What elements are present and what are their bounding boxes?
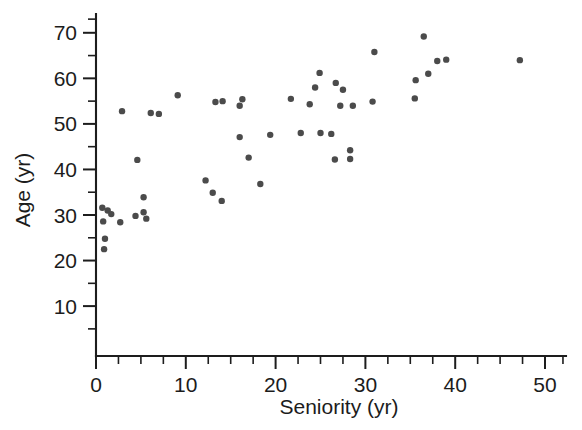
data-point [134, 157, 140, 163]
data-point [340, 87, 346, 93]
data-point [210, 189, 216, 195]
data-point [117, 219, 123, 225]
x-axis-tick-label: 30 [354, 373, 377, 396]
data-point [236, 134, 242, 140]
data-point [350, 102, 356, 108]
data-point [307, 101, 313, 107]
data-point [288, 96, 294, 102]
data-point [140, 209, 146, 215]
data-point [337, 102, 343, 108]
data-point [239, 96, 245, 102]
data-point [517, 57, 523, 63]
data-point [212, 99, 218, 105]
data-point [156, 111, 162, 117]
y-axis-tick-label: 20 [54, 249, 77, 272]
data-point [236, 102, 242, 108]
data-point [219, 198, 225, 204]
data-point [119, 108, 125, 114]
y-axis-tick-label: 10 [54, 295, 77, 318]
data-point [267, 132, 273, 138]
x-axis-tick-label: 20 [264, 373, 287, 396]
data-point [102, 235, 108, 241]
data-point [100, 218, 106, 224]
data-point [412, 95, 418, 101]
data-point [333, 80, 339, 86]
x-axis-tick-label: 40 [444, 373, 467, 396]
data-point [434, 58, 440, 64]
data-point [298, 130, 304, 136]
y-axis: 10203040506070 [54, 14, 96, 356]
data-point [317, 130, 323, 136]
data-point [245, 154, 251, 160]
data-point [412, 77, 418, 83]
data-point [148, 110, 154, 116]
data-point [108, 211, 114, 217]
data-point [143, 215, 149, 221]
y-axis-tick-label: 50 [54, 112, 77, 135]
data-point [332, 156, 338, 162]
data-points-layer [99, 33, 523, 252]
data-point [312, 84, 318, 90]
data-point [328, 131, 334, 137]
data-point [316, 70, 322, 76]
x-axis-tick-label: 0 [90, 373, 102, 396]
y-axis-tick-label: 40 [54, 158, 77, 181]
x-axis: 01020304050 [90, 356, 566, 396]
data-point [202, 177, 208, 183]
y-axis-title: Age (yr) [11, 153, 34, 228]
y-axis-tick-label: 60 [54, 67, 77, 90]
x-axis-title: Seniority (yr) [279, 395, 398, 418]
data-point [101, 246, 107, 252]
data-point [140, 194, 146, 200]
data-point [257, 181, 263, 187]
data-point [443, 56, 449, 62]
data-point [371, 49, 377, 55]
y-axis-tick-label: 70 [54, 21, 77, 44]
data-point [175, 92, 181, 98]
data-point [347, 147, 353, 153]
data-point [219, 98, 225, 104]
data-point [347, 156, 353, 162]
scatter-plot-figure: 10203040506070 01020304050 Seniority (yr… [0, 0, 582, 430]
x-axis-tick-label: 10 [174, 373, 197, 396]
data-point [421, 33, 427, 39]
x-axis-tick-label: 50 [533, 373, 556, 396]
data-point [132, 213, 138, 219]
data-point [369, 98, 375, 104]
chart-canvas: 10203040506070 01020304050 Seniority (yr… [0, 0, 582, 430]
data-point [425, 71, 431, 77]
y-axis-tick-label: 30 [54, 204, 77, 227]
